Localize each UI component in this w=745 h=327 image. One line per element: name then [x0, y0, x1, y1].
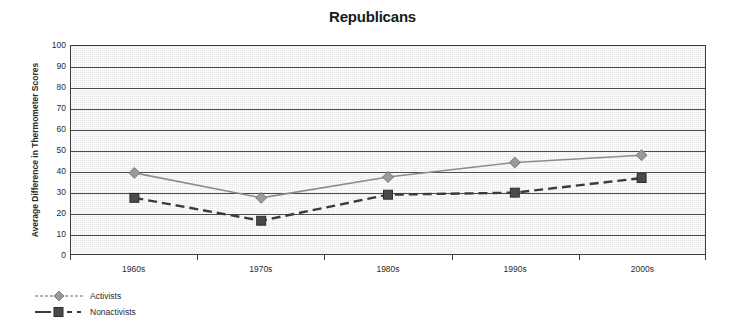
- y-tick-label: 10: [40, 229, 66, 239]
- y-tick-label: 80: [40, 82, 66, 92]
- y-tick-label: 60: [40, 124, 66, 134]
- data-point-marker: [637, 174, 646, 183]
- legend-item-activists: Activists: [34, 288, 136, 304]
- series-layer: [71, 46, 705, 254]
- plot-area: [70, 45, 706, 255]
- chart-figure: Republicans Average Difference in Thermo…: [0, 0, 745, 327]
- data-point-marker: [256, 192, 267, 203]
- legend-label-activists: Activists: [90, 291, 121, 301]
- y-tick-label: 20: [40, 208, 66, 218]
- legend-swatch-activists: [34, 289, 84, 303]
- x-tick-mark: [452, 255, 453, 260]
- y-axis-tick-labels: 1009080706050403020100: [38, 45, 66, 255]
- x-tick-mark: [705, 255, 706, 260]
- x-tick-label: 2000s: [631, 264, 654, 274]
- data-point-marker: [129, 167, 140, 178]
- y-tick-label: 50: [40, 145, 66, 155]
- x-axis-ticks: [70, 255, 706, 261]
- y-tick-label: 70: [40, 103, 66, 113]
- x-tick-mark: [324, 255, 325, 260]
- y-tick-label: 40: [40, 166, 66, 176]
- x-tick-label: 1990s: [504, 264, 527, 274]
- data-point-marker: [383, 172, 394, 183]
- legend-item-nonactivists: Nonactivists: [34, 304, 136, 320]
- data-point-marker: [384, 190, 393, 199]
- x-tick-label: 1960s: [122, 264, 145, 274]
- chart-legend: Activists Nonactivists: [34, 288, 136, 320]
- x-tick-mark: [579, 255, 580, 260]
- y-tick-label: 100: [40, 40, 66, 50]
- data-point-marker: [130, 193, 139, 202]
- x-tick-mark: [70, 255, 71, 260]
- x-tick-label: 1970s: [249, 264, 272, 274]
- x-axis-tick-labels: 1960s1970s1980s1990s2000s: [70, 264, 706, 278]
- legend-swatch-nonactivists: [34, 305, 84, 319]
- data-point-marker: [509, 157, 520, 168]
- y-tick-label: 90: [40, 61, 66, 71]
- y-tick-label: 30: [40, 187, 66, 197]
- legend-label-nonactivists: Nonactivists: [90, 307, 136, 317]
- chart-title: Republicans: [0, 8, 745, 25]
- x-tick-label: 1980s: [376, 264, 399, 274]
- data-point-marker: [510, 188, 519, 197]
- data-point-marker: [636, 150, 647, 161]
- x-tick-mark: [197, 255, 198, 260]
- data-point-marker: [257, 216, 266, 225]
- y-tick-label: 0: [40, 250, 66, 260]
